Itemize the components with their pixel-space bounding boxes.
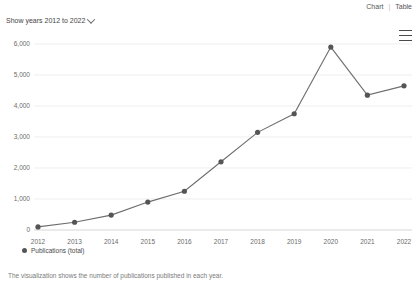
x-axis-tick-label: 2015 (141, 238, 156, 244)
x-axis-tick-labels: 2012201320142015201620172018201920202021… (31, 238, 412, 244)
data-point[interactable] (182, 189, 187, 194)
y-axis-tick-label: 5,000 (14, 71, 31, 78)
x-axis-tick-label: 2014 (104, 238, 119, 244)
y-axis-tick-label: 3,000 (14, 133, 31, 140)
x-axis-tick-label: 2017 (214, 238, 229, 244)
data-point[interactable] (218, 159, 223, 164)
line-chart: 01,0002,0003,0004,0005,0006,000 20122013… (0, 34, 420, 244)
chart-plot-area: 01,0002,0003,0004,0005,0006,000 20122013… (0, 34, 420, 244)
data-point[interactable] (365, 93, 370, 98)
year-range-selector[interactable]: Show years 2012 to 2022 (6, 17, 94, 24)
x-axis-tick-label: 2021 (360, 238, 375, 244)
view-mode-switcher[interactable]: Chart | Table (366, 3, 412, 10)
legend-marker-icon (22, 248, 27, 253)
hamburger-line-1 (399, 30, 412, 31)
y-axis-tick-label: 2,000 (14, 164, 31, 171)
x-axis-tick-label: 2013 (67, 238, 82, 244)
data-point[interactable] (255, 130, 260, 135)
y-axis-tick-label: 1,000 (14, 195, 31, 202)
year-range-label: Show years 2012 to 2022 (6, 17, 85, 24)
grid-lines (34, 44, 412, 230)
x-axis-tick-label: 2018 (250, 238, 265, 244)
data-point[interactable] (145, 200, 150, 205)
y-axis-tick-label: 6,000 (14, 40, 31, 47)
chart-caption: The visualization shows the number of pu… (8, 272, 223, 279)
y-axis-tick-label: 4,000 (14, 102, 31, 109)
view-mode-separator: | (388, 3, 390, 10)
legend-series-label: Publications (total) (31, 247, 84, 254)
x-axis-tick-label: 2019 (287, 238, 302, 244)
data-point[interactable] (292, 111, 297, 116)
data-point[interactable] (35, 224, 40, 229)
view-chart-link[interactable]: Chart (366, 3, 383, 10)
y-axis-tick-label: 0 (26, 226, 30, 233)
data-point[interactable] (401, 83, 406, 88)
data-point[interactable] (72, 220, 77, 225)
x-axis-tick-label: 2016 (177, 238, 192, 244)
x-axis-tick-label: 2022 (397, 238, 412, 244)
data-point[interactable] (328, 45, 333, 50)
data-point[interactable] (109, 213, 114, 218)
view-table-link[interactable]: Table (395, 3, 412, 10)
chevron-down-icon (87, 15, 95, 23)
y-axis-tick-labels: 01,0002,0003,0004,0005,0006,000 (14, 40, 31, 233)
x-axis-tick-label: 2012 (31, 238, 46, 244)
chart-legend[interactable]: Publications (total) (22, 247, 84, 254)
x-axis-tick-label: 2020 (324, 238, 339, 244)
